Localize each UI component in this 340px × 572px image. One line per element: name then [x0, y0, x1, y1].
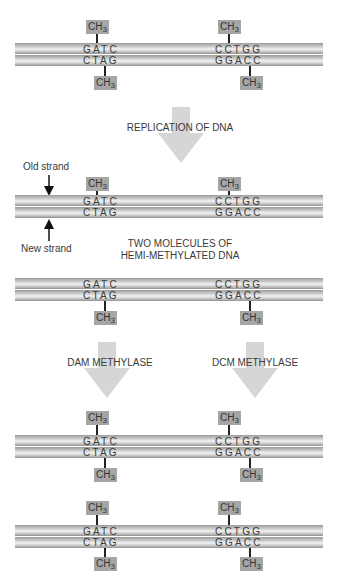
dam-site-bottom-sequence: CTAG — [83, 290, 119, 301]
methyl-subscript: 3 — [235, 416, 239, 425]
methyl-bond-line — [104, 301, 106, 311]
dna-strand-bottom — [15, 447, 323, 458]
dam-site-top-sequence: GATC — [83, 279, 119, 290]
methyl-label: CH — [242, 312, 256, 323]
methyl-label: CH — [220, 502, 234, 513]
hemi-label-line-1: TWO MOLECULES OF — [100, 238, 260, 250]
dcm-site-bottom-sequence: GGACC — [215, 207, 263, 218]
methyl-label: CH — [88, 502, 102, 513]
hemi-label-line-2: HEMI-METHYLATED DNA — [100, 250, 260, 262]
methyl-bond-line — [228, 425, 230, 435]
methyl-label: CH — [242, 558, 256, 569]
down-arrow-icon — [84, 342, 130, 400]
methyl-group-box: CH3 — [94, 468, 117, 482]
methyl-label: CH — [96, 77, 110, 88]
methyl-bond-line — [249, 66, 251, 76]
methyl-group-box: CH3 — [240, 557, 263, 571]
methyl-group-box: CH3 — [240, 311, 263, 325]
dam-site-bottom-sequence: CTAG — [83, 447, 119, 458]
methyl-subscript: 3 — [111, 316, 115, 325]
dcm-site-top-sequence: CCTGG — [215, 44, 262, 55]
old-strand-label: Old strand — [23, 161, 69, 172]
dcm-site-top-sequence: CCTGG — [215, 526, 262, 537]
dcm-site-top-sequence: CCTGG — [215, 436, 262, 447]
dam-site-bottom-sequence: CTAG — [83, 207, 119, 218]
dna-strand-top — [15, 43, 323, 54]
down-pointer-arrow-icon — [43, 175, 55, 197]
step-label-dam-methylase: DAM METHYLASE — [40, 357, 180, 368]
methyl-group-box: CH3 — [218, 20, 241, 34]
dcm-site-bottom-sequence: GGACC — [215, 55, 263, 66]
dam-site-top-sequence: GATC — [83, 436, 119, 447]
methyl-subscript: 3 — [103, 416, 107, 425]
methyl-bond-line — [249, 301, 251, 311]
dcm-site-top-sequence: CCTGG — [215, 279, 262, 290]
down-arrow-icon — [232, 342, 278, 400]
methyl-subscript: 3 — [235, 506, 239, 515]
new-strand-label: New strand — [21, 243, 72, 254]
methyl-bond-line — [104, 458, 106, 468]
methyl-group-box: CH3 — [86, 411, 109, 425]
methyl-group-box: CH3 — [218, 501, 241, 515]
methyl-label: CH — [242, 469, 256, 480]
methyl-group-box: CH3 — [218, 411, 241, 425]
up-pointer-arrow-icon — [43, 219, 55, 241]
dna-strand-new — [15, 278, 323, 289]
dcm-site-top-sequence: CCTGG — [215, 196, 262, 207]
dna-strand-bottom — [15, 55, 323, 66]
methyl-label: CH — [96, 558, 110, 569]
methyl-bond-line — [104, 66, 106, 76]
methyl-label: CH — [220, 21, 234, 32]
methyl-subscript: 3 — [111, 562, 115, 571]
dna-strand-top — [15, 525, 323, 536]
methyl-subscript: 3 — [111, 473, 115, 482]
methyl-bond-line — [96, 425, 98, 435]
methyl-group-box: CH3 — [94, 311, 117, 325]
dna-strand-old — [15, 290, 323, 301]
methyl-group-box: CH3 — [240, 76, 263, 90]
dam-site-bottom-sequence: CTAG — [83, 55, 119, 66]
step-label-replication: REPLICATION OF DNA — [100, 122, 260, 133]
methyl-subscript: 3 — [103, 506, 107, 515]
methyl-subscript: 3 — [257, 562, 261, 571]
dam-site-top-sequence: GATC — [83, 44, 119, 55]
dna-double-helix: GATC CTAG CCTGG GGACC — [15, 525, 323, 548]
dcm-site-bottom-sequence: GGACC — [215, 290, 263, 301]
methyl-subscript: 3 — [111, 81, 115, 90]
methyl-subscript: 3 — [103, 182, 107, 191]
dna-double-helix: GATC CTAG CCTGG GGACC — [15, 435, 323, 458]
methyl-label: CH — [220, 178, 234, 189]
dna-strand-new — [15, 207, 323, 218]
dna-strand-bottom — [15, 537, 323, 548]
methyl-group-box: CH3 — [240, 468, 263, 482]
methyl-subscript: 3 — [257, 316, 261, 325]
dcm-site-bottom-sequence: GGACC — [215, 537, 263, 548]
methyl-group-box: CH3 — [94, 557, 117, 571]
methyl-bond-line — [249, 458, 251, 468]
methyl-group-box: CH3 — [86, 501, 109, 515]
methyl-subscript: 3 — [257, 81, 261, 90]
methyl-label: CH — [96, 469, 110, 480]
methyl-subscript: 3 — [235, 182, 239, 191]
dam-site-bottom-sequence: CTAG — [83, 537, 119, 548]
step-label-dcm-methylase: DCM METHYLASE — [185, 357, 325, 368]
methyl-group-box: CH3 — [218, 177, 241, 191]
methyl-subscript: 3 — [103, 25, 107, 34]
methyl-bond-line — [228, 515, 230, 525]
dam-site-top-sequence: GATC — [83, 196, 119, 207]
down-arrow-icon — [158, 107, 204, 165]
dna-double-helix: GATC CTAG CCTGG GGACC — [15, 278, 323, 301]
methyl-subscript: 3 — [235, 25, 239, 34]
methyl-group-box: CH3 — [94, 76, 117, 90]
dna-strand-old — [15, 195, 323, 206]
methyl-label: CH — [220, 412, 234, 423]
methyl-label: CH — [88, 21, 102, 32]
dna-double-helix: GATC CTAG CCTGG GGACC — [15, 195, 323, 218]
methyl-group-box: CH3 — [86, 177, 109, 191]
dna-double-helix: GATC CTAG CCTGG GGACC — [15, 43, 323, 66]
methyl-label: CH — [88, 178, 102, 189]
methyl-subscript: 3 — [257, 473, 261, 482]
methyl-label: CH — [88, 412, 102, 423]
methyl-bond-line — [96, 515, 98, 525]
dcm-site-bottom-sequence: GGACC — [215, 447, 263, 458]
